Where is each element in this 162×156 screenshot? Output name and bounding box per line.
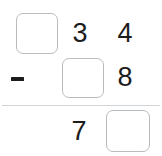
result-separator-rule [2, 105, 160, 106]
minus-operator-icon [11, 77, 24, 81]
digit-minuend-ones: 4 [113, 20, 137, 50]
answer-box-result-ones[interactable] [106, 110, 150, 152]
digit-minuend-tens: 3 [68, 20, 92, 50]
answer-box-minuend-leading[interactable] [16, 13, 58, 54]
digit-result-tens: 7 [67, 118, 91, 148]
subtraction-worksheet: 3 4 8 7 [0, 0, 162, 156]
answer-box-subtrahend-tens[interactable] [62, 58, 104, 98]
digit-subtrahend-ones: 8 [113, 64, 137, 94]
